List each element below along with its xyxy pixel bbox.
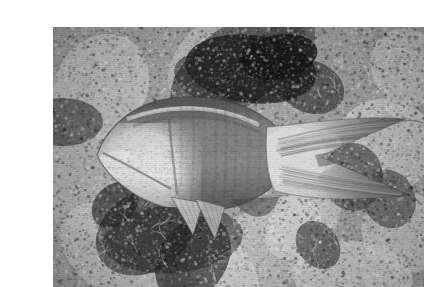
photograph: Parrotfish swimming over a coral reef Bl… (53, 27, 424, 287)
reef-photograph-canvas (53, 27, 424, 287)
